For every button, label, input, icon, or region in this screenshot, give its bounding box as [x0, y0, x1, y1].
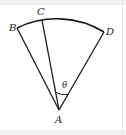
- label-C: C: [37, 6, 45, 17]
- label-B: B: [8, 22, 16, 33]
- label-theta: θ: [62, 80, 67, 90]
- sector-figure: B C D A θ: [0, 0, 126, 135]
- label-A: A: [54, 114, 62, 125]
- angle-theta-arc: [56, 92, 68, 94]
- segment-AD: [59, 32, 104, 110]
- arc-BD: [17, 19, 104, 32]
- segment-AC: [42, 20, 59, 110]
- segment-AB: [17, 28, 59, 110]
- diagram-canvas: B C D A θ: [0, 0, 126, 135]
- label-D: D: [105, 26, 114, 37]
